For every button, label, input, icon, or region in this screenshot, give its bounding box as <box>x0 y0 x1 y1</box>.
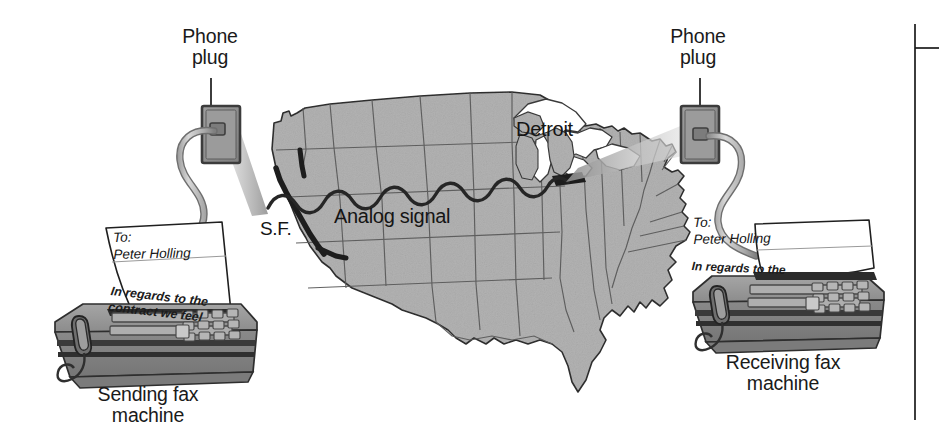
fax-machine-icon <box>693 220 884 353</box>
phone-plug-icon <box>202 78 240 163</box>
fax-paper-slot <box>753 272 877 280</box>
map-label-sf: S.F. <box>260 218 292 240</box>
map-label-detroit: Detroit <box>516 118 573 141</box>
fax-keypad <box>176 309 240 341</box>
fax-diagram-figure: Phone plug Phone plug Sending fax machin… <box>0 0 939 438</box>
phone-plug-icon <box>681 78 719 163</box>
fax-machine-icon <box>55 222 257 388</box>
page-margin-rule <box>915 24 939 420</box>
us-map-icon <box>272 92 690 392</box>
diagram-canvas <box>0 0 939 438</box>
map-label-analog-signal: Analog signal <box>334 205 450 228</box>
fax-keypad <box>806 281 870 313</box>
